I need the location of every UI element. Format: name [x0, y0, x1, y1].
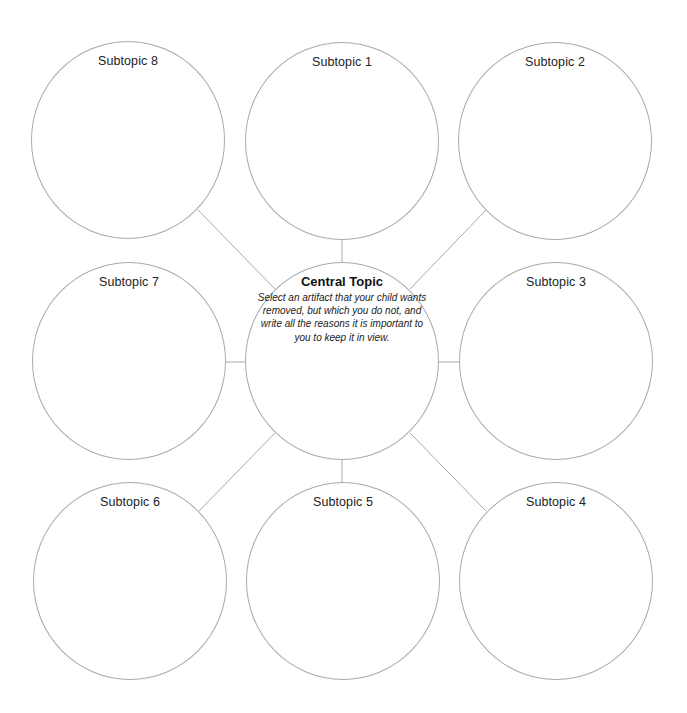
subtopic-8-node[interactable]: Subtopic 8 [31, 41, 225, 239]
subtopic-5-label: Subtopic 5 [247, 495, 439, 509]
subtopic-3-label: Subtopic 3 [460, 275, 652, 289]
subtopic-6-label: Subtopic 6 [34, 495, 226, 509]
subtopic-7-node[interactable]: Subtopic 7 [32, 262, 226, 460]
central-topic-node[interactable]: Central Topic Select an artifact that yo… [245, 262, 439, 460]
subtopic-3-node[interactable]: Subtopic 3 [459, 262, 653, 460]
subtopic-4-node[interactable]: Subtopic 4 [459, 482, 653, 680]
subtopic-7-label: Subtopic 7 [33, 275, 225, 289]
central-topic-title: Central Topic [246, 274, 438, 289]
subtopic-2-node[interactable]: Subtopic 2 [458, 42, 652, 240]
subtopic-5-node[interactable]: Subtopic 5 [246, 482, 440, 680]
subtopic-1-label: Subtopic 1 [246, 55, 438, 69]
subtopic-2-label: Subtopic 2 [459, 55, 651, 69]
subtopic-6-node[interactable]: Subtopic 6 [33, 482, 227, 680]
mind-map: Subtopic 8 Subtopic 1 Subtopic 2 Subtopi… [0, 0, 687, 713]
subtopic-1-node[interactable]: Subtopic 1 [245, 42, 439, 240]
subtopic-8-label: Subtopic 8 [32, 54, 224, 68]
subtopic-4-label: Subtopic 4 [460, 495, 652, 509]
central-topic-description: Select an artifact that your child wants… [254, 291, 430, 344]
